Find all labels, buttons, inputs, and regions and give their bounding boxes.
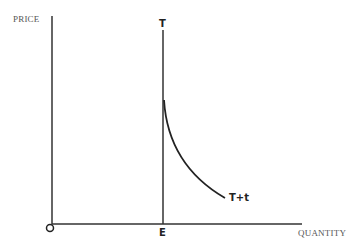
t-plus-t-label: T+t	[229, 192, 249, 203]
t-plus-t-curve	[164, 100, 225, 198]
supply-diagram: PRICE QUANTITY T E T+t	[0, 0, 357, 252]
price-axis-label: PRICE	[13, 14, 40, 24]
origin-marker	[47, 225, 54, 232]
quantity-axis-label: QUANTITY	[298, 228, 346, 238]
e-quantity-label: E	[159, 227, 166, 238]
t-line-label: T	[159, 18, 166, 29]
